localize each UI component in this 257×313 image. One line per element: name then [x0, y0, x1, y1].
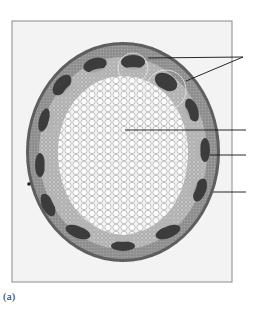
stem-cross-section — [26, 42, 220, 262]
specimen-speck — [27, 182, 31, 186]
pith — [58, 76, 188, 235]
figure-caption: (a) — [3, 290, 15, 302]
stem-micrograph-figure — [0, 0, 257, 313]
